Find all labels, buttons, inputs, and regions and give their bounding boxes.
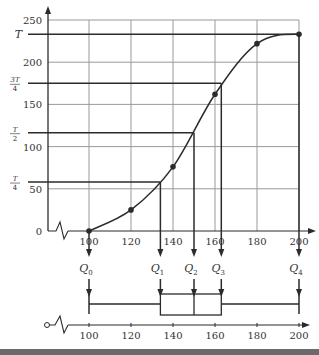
label-T-2-den: 2 <box>13 135 17 143</box>
data-point <box>212 91 218 97</box>
data-point <box>296 32 302 38</box>
down-arrow-icon <box>296 249 302 257</box>
page-edge-bar <box>0 349 319 355</box>
label-3T-4-den: 4 <box>13 85 18 93</box>
y-axis-arrow-icon <box>45 6 51 14</box>
y-tick-label: 200 <box>23 57 42 68</box>
axis-break-zigzag-icon <box>50 316 69 333</box>
boxplot-axis-tick-label: 200 <box>289 330 308 341</box>
boxplot-axis-tick-label: 120 <box>121 330 140 341</box>
label-T-4-num: T <box>13 175 19 183</box>
data-point <box>128 207 134 213</box>
y-tick-label: 150 <box>23 99 42 110</box>
data-point <box>86 228 92 234</box>
cumulative-frequency-chart: 050100150200250100120140160180200T3T4T2T… <box>0 0 319 355</box>
data-point <box>170 164 176 170</box>
quartile-label-Q0: Q0 <box>79 262 93 277</box>
y-tick-label: 250 <box>23 15 42 26</box>
quartile-label-Q1: Q1 <box>151 262 165 277</box>
quartile-label-Q3: Q3 <box>212 262 226 277</box>
label-T-4-den: 4 <box>13 184 18 192</box>
boxplot-axis-tick-label: 140 <box>163 330 182 341</box>
x-tick-label: 180 <box>247 236 266 247</box>
down-arrow-icon <box>218 249 224 257</box>
down-arrow-icon <box>191 249 197 257</box>
label-3T-4-num: 3T <box>10 76 20 84</box>
boxplot-axis-arrow-icon <box>302 322 310 328</box>
label-T: T <box>15 28 24 41</box>
boxplot-axis-tick-label: 180 <box>247 330 266 341</box>
boxplot-box <box>160 294 221 315</box>
x-tick-label: 140 <box>163 236 182 247</box>
down-arrow-icon <box>157 249 163 257</box>
axis-break-zigzag-icon <box>48 222 68 239</box>
boxplot-axis-tick-label: 160 <box>205 330 224 341</box>
y-tick-label: 100 <box>23 142 42 153</box>
quartile-label-Q2: Q2 <box>184 262 198 277</box>
label-T-2-num: T <box>13 126 19 134</box>
boxplot-axis-tick-label: 100 <box>79 330 98 341</box>
data-point <box>254 41 260 47</box>
x-tick-label: 120 <box>121 236 140 247</box>
origin-open-circle-icon <box>45 323 50 328</box>
quartile-label-Q4: Q4 <box>289 262 303 277</box>
y-tick-label: 50 <box>29 184 42 195</box>
y-tick-label: 0 <box>36 226 42 237</box>
x-axis-arrow-icon <box>308 228 316 234</box>
down-arrow-icon <box>86 249 92 257</box>
